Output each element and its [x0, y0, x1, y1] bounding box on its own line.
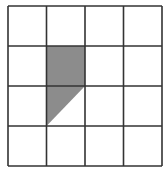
shaded-triangle	[47, 86, 86, 126]
shaded-square	[47, 46, 86, 86]
grid-diagram	[0, 0, 166, 172]
grid-lines	[8, 6, 162, 166]
